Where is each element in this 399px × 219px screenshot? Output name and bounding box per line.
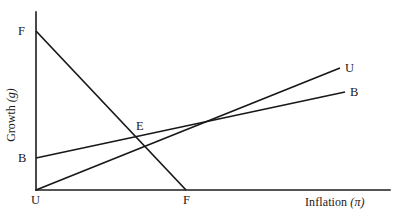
uu-curve	[36, 68, 340, 190]
label-ff-bottom: F	[183, 194, 190, 207]
economics-diagram: Growth (g) Inflation (π) F F B B U U E	[0, 0, 399, 219]
label-bb-right: B	[350, 86, 358, 99]
bb-curve	[36, 92, 345, 158]
y-axis-label-symbol: (g)	[4, 88, 18, 102]
label-ff-top: F	[18, 25, 25, 38]
x-axis-label-text: Inflation	[305, 195, 347, 209]
label-bb-left: B	[18, 152, 26, 165]
label-uu-right: U	[345, 62, 354, 75]
plot-canvas	[0, 0, 399, 219]
x-axis-label: Inflation (π)	[305, 196, 365, 208]
label-equilibrium-e: E	[136, 120, 144, 133]
label-uu-origin: U	[31, 194, 40, 207]
x-axis-label-symbol: (π)	[350, 195, 364, 209]
ff-curve	[36, 31, 186, 190]
y-axis-label-text: Growth	[4, 105, 18, 142]
